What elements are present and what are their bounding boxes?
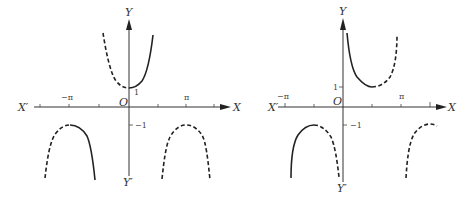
csc-right-branch xyxy=(406,124,437,178)
y-axis-arrow-icon xyxy=(126,19,132,30)
csc-graph: Y Y′ X X′ O −π π 1 −1 xyxy=(267,5,457,195)
sec-left-right-half xyxy=(70,125,95,180)
csc-lower-right-half xyxy=(314,125,339,177)
csc-upper-left-half xyxy=(347,33,372,87)
x-axis-arrow-icon xyxy=(436,104,447,110)
sec-right-branch xyxy=(162,125,210,180)
one-label: 1 xyxy=(333,83,338,92)
neg-one-label: −1 xyxy=(350,121,362,130)
y-axis-neg-label: Y′ xyxy=(337,182,347,195)
sec-center-left-half xyxy=(103,33,129,88)
stray-mark: · xyxy=(236,100,238,107)
trig-graphs-figure: Y Y′ X X′ O −π π 1 −1 xyxy=(0,0,472,206)
x-axis-neg-label: X′ xyxy=(267,101,279,114)
origin-label: O xyxy=(119,96,128,109)
sec-graph: Y Y′ X X′ O −π π 1 −1 xyxy=(17,6,242,189)
csc-upper-right-half xyxy=(372,35,397,87)
csc-lower-left-half xyxy=(291,125,314,178)
x-axis-arrow-icon xyxy=(220,104,231,110)
sec-center-right-half xyxy=(129,35,153,88)
x-axis-neg-label: X′ xyxy=(17,101,29,114)
pi-label: π xyxy=(184,93,189,102)
neg-pi-label: −π xyxy=(61,93,73,102)
y-axis-arrow-icon xyxy=(340,18,346,30)
neg-pi-label: −π xyxy=(277,92,289,101)
y-axis-label: Y xyxy=(125,6,134,19)
one-label: 1 xyxy=(134,88,139,97)
y-axis-label: Y xyxy=(339,5,348,18)
neg-one-label: −1 xyxy=(135,121,147,130)
x-ticks xyxy=(285,102,430,107)
x-axis-label: X xyxy=(447,101,457,114)
y-axis-neg-label: Y′ xyxy=(123,176,133,189)
origin-label: O xyxy=(333,95,342,108)
pi-label: π xyxy=(399,92,404,101)
sec-left-left-half xyxy=(45,125,70,178)
